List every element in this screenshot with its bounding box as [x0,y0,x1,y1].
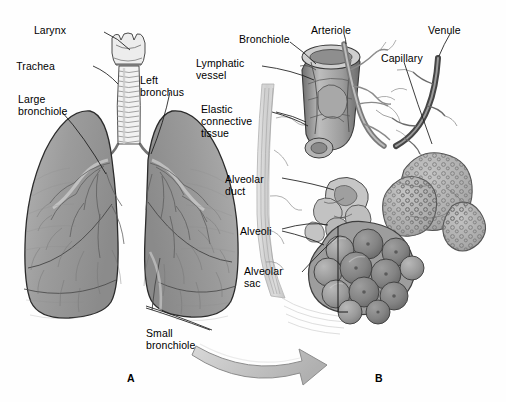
trachea-structure [117,66,140,144]
panel-letter-a: A [127,372,135,384]
alveolar-sac-cluster [309,221,425,324]
figure-canvas: Larynx Trachea Large bronchiole Left bro… [0,0,506,402]
label-left-bronchus: Left bronchus [140,74,204,98]
label-venule: Venule [428,24,476,36]
label-alveoli: Alveoli [240,225,284,237]
label-bronchiole: Bronchiole [239,33,301,45]
label-small-bronchiole: Small bronchiole [146,327,214,351]
label-arteriole: Arteriole [311,24,367,36]
panel-letter-b: B [375,372,383,384]
label-alveolar-duct: Alveolar duct [225,173,283,197]
label-lymphatic-vessel: Lymphatic vessel [196,57,264,81]
panel-b-alveolar-unit [257,40,486,334]
label-alveolar-sac: Alveolar sac [244,265,304,289]
venule-structure [376,58,457,166]
lung-right-organ [24,111,124,319]
label-larynx: Larynx [6,24,66,36]
lung-left-organ [144,111,238,321]
bronchiole-structure [300,45,360,158]
label-large-bronchiole: Large bronchiole [18,93,90,117]
label-capillary: Capillary [381,52,435,64]
label-trachea: Trachea [0,60,55,72]
label-elastic-connective-tissue: Elastic connective tissue [201,103,273,140]
